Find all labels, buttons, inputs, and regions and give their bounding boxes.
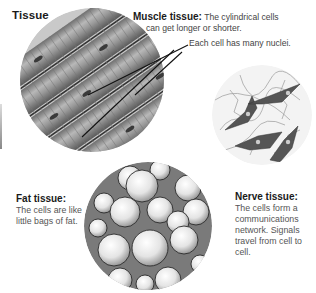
nerve-tissue-label: Nerve tissue: (235, 191, 315, 202)
page-title: Tissue (12, 9, 49, 21)
nuclei-pointer-caption: Each cell has many nuclei. (189, 38, 291, 48)
fat-tissue-illustration (84, 160, 212, 293)
nerve-tissue-description: The cells form a communications network.… (235, 203, 302, 257)
fat-tissue-label: Fat tissue: (16, 193, 86, 204)
nerve-tissue-illustration (212, 65, 312, 165)
fat-tissue-caption: Fat tissue: The cells are like little ba… (16, 193, 86, 227)
fat-tissue-description: The cells are like little bags of fat. (16, 205, 82, 226)
muscle-tissue-description-line1: The cylindrical cells (204, 12, 279, 22)
muscle-tissue-caption: Muscle tissue: The cylindrical cells can… (133, 11, 316, 34)
nerve-tissue-caption: Nerve tissue: The cells form a communica… (235, 191, 315, 258)
muscle-tissue-description-line2: can get longer or shorter. (133, 23, 316, 34)
muscle-tissue-label: Muscle tissue: (133, 11, 202, 22)
page-edge-bar (0, 104, 2, 149)
